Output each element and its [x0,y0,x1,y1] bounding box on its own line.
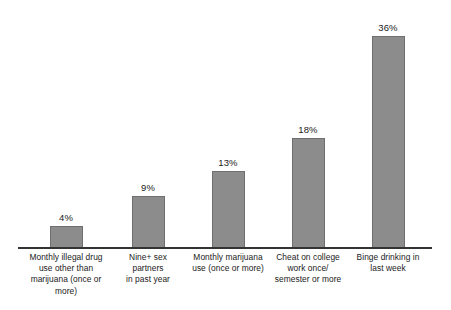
category-label-1-line-4: more) [21,286,111,297]
bar-slot-1: 4% [26,0,106,248]
bar-rect-1 [50,226,83,248]
x-axis-line [18,247,432,249]
category-label-4: Cheat on college work once/ semester or … [263,252,353,286]
category-label-1-line-1: Monthly illegal drug [21,252,111,263]
category-label-2-line-3: in past year [103,274,193,285]
category-label-5-line-1: Binge drinking in [343,252,433,263]
category-axis-labels: Monthly illegal drug use other than mari… [0,252,451,310]
bar-group-1: 4% [26,212,106,248]
bar-slot-2: 9% [108,0,188,248]
bar-rect-2 [132,196,165,248]
category-label-2-line-1: Nine+ sex [103,252,193,263]
category-label-1-line-3: marijuana (once or [21,274,111,285]
bar-rect-4 [292,138,325,248]
bar-rect-3 [212,171,245,248]
bar-slot-3: 13% [188,0,268,248]
category-label-1: Monthly illegal drug use other than mari… [21,252,111,297]
plot-area: 4% 9% 13% 18% 36% [0,0,451,248]
bar-group-2: 9% [108,182,188,248]
bar-group-3: 13% [188,157,268,248]
category-label-3-line-2: use (once or more) [183,263,273,274]
bar-value-label-2: 9% [141,182,155,193]
category-label-5: Binge drinking in last week [343,252,433,274]
category-label-1-line-2: use other than [21,263,111,274]
bar-group-5: 36% [348,22,428,248]
category-label-2-line-2: partners [103,263,193,274]
category-label-4-line-1: Cheat on college [263,252,353,263]
category-label-3: Monthly marijuana use (once or more) [183,252,273,274]
bar-rect-5 [372,36,405,248]
bar-chart: 4% 9% 13% 18% 36% [0,0,451,310]
bar-value-label-1: 4% [59,212,73,223]
bar-value-label-3: 13% [218,157,237,168]
bar-slot-5: 36% [348,0,428,248]
bar-value-label-4: 18% [298,124,317,135]
category-label-3-line-1: Monthly marijuana [183,252,273,263]
bar-value-label-5: 36% [378,22,397,33]
bar-slot-4: 18% [268,0,348,248]
category-label-4-line-2: work once/ [263,263,353,274]
bar-group-4: 18% [268,124,348,248]
category-label-5-line-2: last week [343,263,433,274]
category-label-2: Nine+ sex partners in past year [103,252,193,286]
category-label-4-line-3: semester or more [263,274,353,285]
